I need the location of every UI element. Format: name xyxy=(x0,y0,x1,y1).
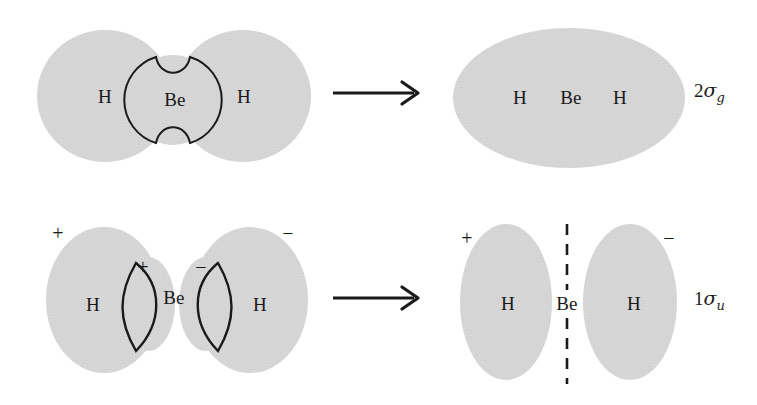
sign-minus-outer-right: − xyxy=(282,223,293,243)
sign-plus-outer-left: + xyxy=(52,223,63,243)
mo-label-1-sigma-u: 1σu xyxy=(694,287,725,313)
reaction-arrow-top xyxy=(333,82,418,104)
mo-label-number: 1 xyxy=(694,288,704,309)
sign-minus-product-right: − xyxy=(663,228,674,248)
mo-label-sigma: σ xyxy=(704,287,717,309)
atom-label-h-left-product-bottom: H xyxy=(501,293,515,315)
molecular-orbital-figure: H Be H H Be H 2σg + + H Be − − H + H Be … xyxy=(0,0,757,405)
mo-label-number: 2 xyxy=(694,80,704,101)
atom-label-h-left-bottom: H xyxy=(86,294,100,316)
mo-label-subscript: u xyxy=(716,298,724,313)
mo-label-subscript: g xyxy=(716,90,724,105)
reaction-arrow-bottom xyxy=(333,287,418,309)
sign-plus-inner-left: + xyxy=(137,257,148,277)
atom-label-h-right-product-bottom: H xyxy=(627,293,641,315)
mo-label-sigma: σ xyxy=(704,79,717,101)
atom-label-be-product-bottom: Be xyxy=(556,293,578,315)
orbital-shapes-layer xyxy=(0,0,757,405)
atom-label-be-product-top: Be xyxy=(560,87,582,109)
mo-label-2-sigma-g: 2σg xyxy=(694,79,725,105)
atom-label-be-top: Be xyxy=(164,89,186,111)
atom-label-h-right-bottom: H xyxy=(253,294,267,316)
atom-label-h-right-top: H xyxy=(237,86,251,108)
atom-label-be-bottom: Be xyxy=(163,287,185,309)
atom-label-h-right-product-top: H xyxy=(613,87,627,109)
atom-label-h-left-product-top: H xyxy=(513,87,527,109)
sign-plus-product-left: + xyxy=(461,228,472,248)
atom-label-h-left-top: H xyxy=(98,86,112,108)
sign-minus-inner-right: − xyxy=(195,257,206,277)
